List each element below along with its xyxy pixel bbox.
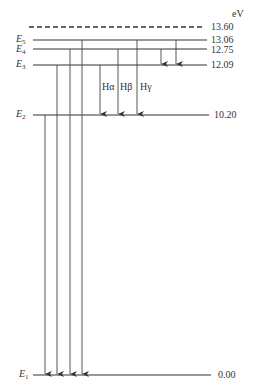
unit-label: eV (232, 9, 244, 19)
h-alpha-label: Hα (102, 81, 114, 92)
level-e2-value: 10.20 (214, 110, 237, 120)
level-e3-label: E3 (16, 59, 26, 72)
ionization-value: 13.60 (211, 22, 234, 32)
level-e3-value: 12.09 (211, 60, 234, 70)
level-e1-value: 0.00 (218, 370, 236, 380)
level-e4-value: 12.75 (211, 45, 234, 55)
h-gamma-label: Hγ (140, 81, 152, 92)
h-beta-label: Hβ (120, 81, 132, 92)
level-e2-label: E2 (16, 109, 26, 122)
level-e1-label: E1 (19, 369, 29, 382)
level-e4-label: E4 (16, 44, 26, 57)
